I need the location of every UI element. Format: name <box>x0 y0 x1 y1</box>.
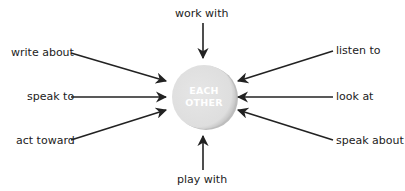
label-speak-to: speak to <box>27 90 74 103</box>
label-write-about: write about <box>11 46 74 59</box>
arrow-speak-about <box>238 110 333 140</box>
center-label-line2: OTHER <box>172 97 236 109</box>
arrow-write-about <box>71 53 166 81</box>
label-speak-about: speak about <box>336 134 404 147</box>
center-label: EACH OTHER <box>172 85 236 109</box>
label-act-toward: act toward <box>16 134 75 147</box>
label-look-at: look at <box>336 90 373 103</box>
label-work-with: work with <box>175 7 228 20</box>
label-play-with: play with <box>177 173 227 186</box>
center-label-line1: EACH <box>172 85 236 97</box>
arrow-listen-to <box>238 51 333 81</box>
arrow-act-toward <box>71 110 166 140</box>
label-listen-to: listen to <box>336 44 380 57</box>
